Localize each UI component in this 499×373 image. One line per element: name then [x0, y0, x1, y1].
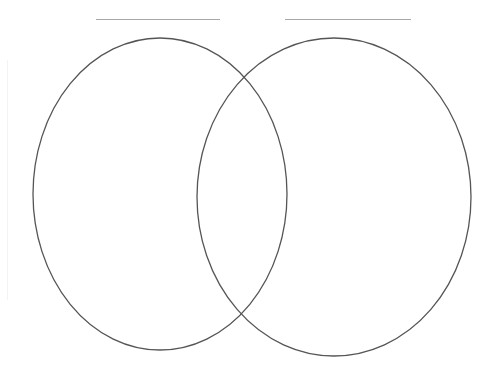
right-set-ellipse — [197, 38, 471, 356]
venn-diagram — [0, 0, 499, 373]
venn-svg — [0, 0, 499, 373]
left-set-ellipse — [33, 38, 287, 350]
